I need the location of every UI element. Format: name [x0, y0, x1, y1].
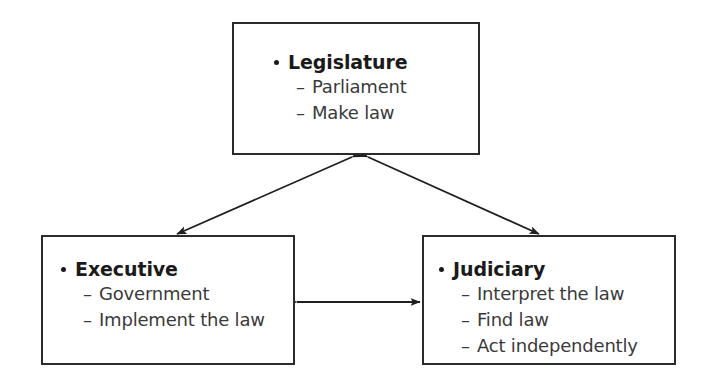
list-item: – Government [61, 281, 265, 307]
node-legislature-title-line: Legislature [274, 50, 408, 74]
node-judiciary-content: Judiciary – Interpret the law – Find law… [439, 257, 638, 359]
list-item: – Find law [439, 307, 638, 333]
list-item-label: Government [99, 281, 209, 307]
list-item-label: Implement the law [99, 307, 265, 333]
list-item: – Parliament [274, 74, 408, 100]
node-judiciary-sub-list: – Interpret the law – Find law – Act ind… [439, 281, 638, 359]
bullet-dot-icon [439, 267, 444, 272]
bullet-dot-icon [61, 267, 66, 272]
node-judiciary-title-line: Judiciary [439, 257, 638, 281]
node-legislature-sub-list: – Parliament – Make law [274, 74, 408, 126]
node-judiciary: Judiciary – Interpret the law – Find law… [422, 235, 676, 365]
diagram-canvas: Legislature – Parliament – Make law Exec… [0, 0, 704, 390]
node-legislature-content: Legislature – Parliament – Make law [274, 50, 408, 126]
en-dash-icon: – [83, 281, 92, 307]
node-executive-title: Executive [75, 257, 178, 281]
node-legislature: Legislature – Parliament – Make law [232, 22, 480, 155]
en-dash-icon: – [83, 307, 92, 333]
list-item-label: Make law [312, 100, 394, 126]
list-item-label: Act independently [477, 333, 638, 359]
node-judiciary-title: Judiciary [453, 257, 545, 281]
en-dash-icon: – [461, 307, 470, 333]
node-legislature-title: Legislature [288, 50, 408, 74]
list-item-label: Find law [477, 307, 549, 333]
en-dash-icon: – [461, 281, 470, 307]
node-executive-title-line: Executive [61, 257, 265, 281]
node-executive-content: Executive – Government – Implement the l… [61, 257, 265, 333]
list-item-label: Interpret the law [477, 281, 624, 307]
connector-legislature-executive [177, 157, 352, 234]
node-executive-sub-list: – Government – Implement the law [61, 281, 265, 333]
bullet-dot-icon [274, 60, 279, 65]
list-item: – Make law [274, 100, 408, 126]
connector-legislature-judiciary [368, 157, 539, 234]
list-item: – Act independently [439, 333, 638, 359]
en-dash-icon: – [296, 100, 305, 126]
en-dash-icon: – [461, 333, 470, 359]
en-dash-icon: – [296, 74, 305, 100]
list-item-label: Parliament [312, 74, 407, 100]
node-executive: Executive – Government – Implement the l… [41, 235, 295, 365]
list-item: – Interpret the law [439, 281, 638, 307]
list-item: – Implement the law [61, 307, 265, 333]
